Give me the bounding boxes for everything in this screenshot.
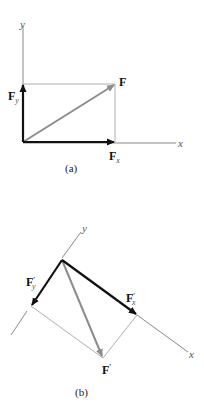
label-Fy-prime: F′y [26,275,36,291]
component-vector-Fy-prime [32,260,62,305]
x-axis-b [137,315,188,352]
caption-a: (a) [65,162,78,175]
vector-resolution-diagram: y x F Fx Fy (a) y x F′ F′x F′y (b) [0,0,204,418]
y-axis-label-a: y [19,18,25,30]
construction-line-right-b [103,315,137,358]
label-F-prime: F′ [102,362,111,377]
resultant-vector-F [23,85,114,142]
caption-b: (b) [75,386,88,399]
figure-b: y x F′ F′x F′y (b) [11,222,194,399]
x-axis-label-b: x [188,348,194,360]
y-axis-upper-b [62,232,81,258]
label-Fx-prime: F′x [126,291,136,307]
label-Fy: Fy [8,89,19,105]
label-F: F [119,75,126,89]
y-axis-label-b: y [81,222,87,234]
x-axis-label-a: x [177,137,183,149]
y-axis-lower-b [11,311,27,335]
label-Fx: Fx [109,149,120,165]
figure-a: y x F Fx Fy (a) [8,18,183,175]
